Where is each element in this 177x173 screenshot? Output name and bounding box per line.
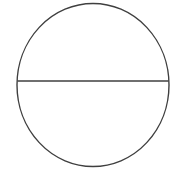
figure-canvas xyxy=(0,0,177,173)
line-drawing-svg xyxy=(0,0,177,173)
figure-background xyxy=(0,0,177,173)
